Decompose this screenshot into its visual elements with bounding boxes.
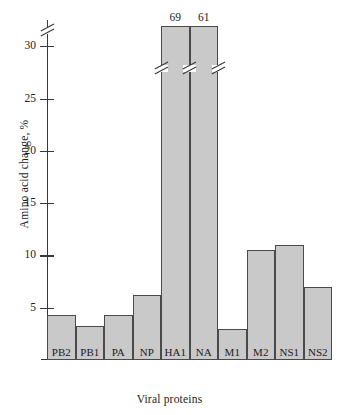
y-tick-30: 30 [40,46,54,47]
plot-area: 51015202530 6961 [47,20,332,360]
bar-NA: 61 [190,26,219,360]
x-axis-title: Viral proteins [0,393,339,405]
bar-M2 [247,250,276,360]
x-tick-label-NS2: NS2 [304,345,333,359]
y-tick-label-25: 25 [25,91,37,106]
y-tick-label-10: 10 [25,247,37,262]
y-tick-5: 5 [40,308,54,309]
y-axis-title: Amino acid change, % [18,84,30,264]
y-tick-10: 10 [40,255,54,256]
x-tick-label-PB2: PB2 [47,345,76,359]
x-tick-label-M1: M1 [218,345,247,359]
bar-HA1: 69 [161,26,190,360]
x-tick-label-NA: NA [190,345,219,359]
bar-value-label-NA: 61 [198,10,210,25]
x-tick-label-M2: M2 [247,345,276,359]
y-tick-label-30: 30 [25,38,37,53]
x-tick-label-NP: NP [133,345,162,359]
bar-value-label-HA1: 69 [170,10,182,25]
y-tick-15: 15 [40,203,54,204]
y-tick-25: 25 [40,99,54,100]
bar-chart-figure: Amino acid change, % 51015202530 6961 PB… [0,0,339,415]
y-axis-line [47,20,48,360]
y-tick-label-20: 20 [25,143,37,158]
y-tick-label-5: 5 [30,300,36,315]
x-tick-label-NS1: NS1 [275,345,304,359]
x-tick-label-HA1: HA1 [161,345,190,359]
y-tick-20: 20 [40,151,54,152]
x-tick-label-PB1: PB1 [76,345,105,359]
x-tick-label-PA: PA [104,345,133,359]
bar-NS1 [275,245,304,360]
y-tick-label-15: 15 [25,195,37,210]
